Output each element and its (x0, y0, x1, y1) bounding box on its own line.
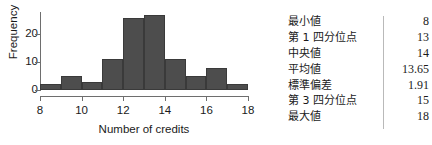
stats-row: 標準偏差1.91 (288, 78, 432, 94)
stats-row-value: 15 (387, 93, 429, 109)
screenshot-root: Frequency 01020 Number of credits 810121… (0, 0, 432, 145)
x-axis-tick-mark (165, 96, 166, 101)
y-axis-tick-mark (35, 34, 40, 35)
stats-row-value: 8 (387, 14, 429, 30)
stats-row-label: 最大値 (288, 109, 376, 125)
histogram-bars (40, 12, 248, 90)
stats-row-label: 平均値 (288, 62, 376, 78)
x-axis-tick-mark (206, 96, 207, 101)
histogram-bar (123, 18, 144, 90)
x-axis-tick: 16 (194, 104, 218, 116)
stats-row-label: 第 1 四分位点 (288, 30, 376, 46)
x-axis-label: Number of credits (40, 123, 248, 135)
histogram-bar (165, 59, 186, 90)
stats-row-value: 14 (387, 46, 429, 62)
histogram-figure: Frequency 01020 Number of credits 810121… (0, 0, 258, 145)
x-axis-tick: 12 (111, 104, 135, 116)
stats-row-label: 中央値 (288, 46, 376, 62)
y-axis-tick-mark (35, 90, 40, 91)
x-axis-tick-mark (248, 96, 249, 101)
stats-row: 平均値13.65 (288, 62, 432, 78)
y-axis-tick-mark (35, 62, 40, 63)
stats-row: 第 1 四分位点13 (288, 30, 432, 46)
plot-area (40, 12, 248, 90)
x-axis-tick-mark (82, 96, 83, 101)
x-axis-tick: 18 (236, 104, 260, 116)
stats-row-value: 13 (387, 30, 429, 46)
histogram-bar (144, 15, 165, 90)
stats-row-value: 13.65 (387, 62, 429, 78)
histogram-bar (206, 68, 227, 90)
x-axis-tick: 10 (70, 104, 94, 116)
stats-table: 最小値8第 1 四分位点13中央値14平均値13.65標準偏差1.91第 3 四… (288, 14, 432, 125)
stats-row-value: 18 (387, 109, 429, 125)
x-axis-tick-mark (123, 96, 124, 101)
stats-row: 最大値18 (288, 109, 432, 125)
stats-row-value: 1.91 (387, 78, 429, 94)
x-axis-line (40, 96, 248, 97)
histogram-bar (227, 84, 248, 90)
x-axis-tick: 14 (153, 104, 177, 116)
y-axis-tick-labels: 01020 (16, 0, 38, 145)
stats-row: 最小値8 (288, 14, 432, 30)
stats-row-label: 標準偏差 (288, 78, 376, 94)
histogram-bar (102, 59, 123, 90)
x-axis-tick: 8 (28, 104, 52, 116)
stats-row: 中央値14 (288, 46, 432, 62)
stats-row: 第 3 四分位点15 (288, 93, 432, 109)
histogram-bar (61, 76, 82, 90)
histogram-bar (186, 76, 207, 90)
histogram-bar (40, 84, 61, 90)
x-axis-tick-mark (40, 96, 41, 101)
stats-row-label: 第 3 四分位点 (288, 93, 376, 109)
histogram-bar (82, 82, 103, 90)
stats-row-label: 最小値 (288, 14, 376, 30)
